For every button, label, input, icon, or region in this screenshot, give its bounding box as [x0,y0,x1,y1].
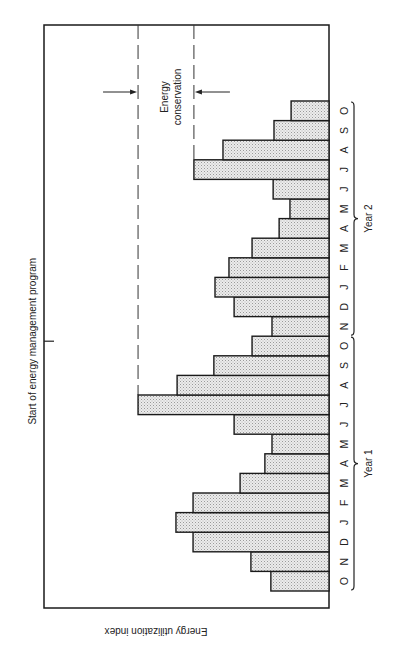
month-label-19: M [338,204,350,213]
y-axis-label: Energy utilization index [105,626,208,637]
bar-9 [138,395,329,415]
energy-conservation-label-line2: conservation [172,69,183,126]
bar-4 [193,493,329,513]
year-brace-2 [351,102,358,335]
bar-8 [234,415,329,435]
month-label-9: J [338,402,350,407]
month-label-13: N [338,323,350,331]
month-label-0: O [338,577,350,585]
program-start-label: Start of energy management program [27,258,38,425]
bar-2 [193,532,329,552]
month-label-1: N [338,558,350,566]
month-labels: ONDJFMAMJJASONDJFMAMJJASO [338,107,350,586]
bar-23 [274,121,329,141]
month-label-15: J [338,285,350,290]
month-label-12: O [338,342,350,350]
bar-24 [291,101,329,121]
bar-10 [177,375,329,395]
bar-11 [214,356,329,376]
month-label-10: A [338,382,350,389]
bar-1 [251,552,329,572]
month-label-11: S [338,362,350,369]
bar-18 [279,219,329,239]
bar-15 [215,277,329,297]
month-label-5: M [338,479,350,488]
bar-6 [265,454,329,474]
bar-22 [223,140,329,160]
month-label-3: J [338,520,350,525]
month-label-6: A [338,460,350,467]
right-arrowhead-icon [195,90,202,95]
bar-12 [252,336,329,356]
month-label-4: F [338,500,350,506]
month-label-23: S [338,127,350,134]
month-label-21: J [338,167,350,172]
bar-21 [194,160,329,180]
year-label-1: Year 1 [363,449,374,478]
month-label-24: O [338,107,350,115]
bar-14 [234,297,329,317]
bar-5 [240,473,329,493]
month-label-20: J [338,187,350,192]
year-braces: Year 1Year 2 [351,102,374,590]
month-label-17: M [338,244,350,253]
bar-0 [271,571,329,591]
month-label-8: J [338,422,350,427]
bar-17 [252,238,329,258]
bar-3 [176,513,329,533]
bar-13 [272,317,329,337]
year-label-2: Year 2 [363,204,374,233]
energy-utilization-chart: Energy conservation ONDJFMAMJJASONDJFMAM… [0,0,397,648]
energy-conservation-label-line1: Energy [159,81,170,113]
energy-conservation-annotation: Energy conservation [103,25,230,395]
year-brace-1 [351,337,358,590]
month-label-22: A [338,146,350,153]
bar-20 [273,179,329,199]
month-label-16: F [338,264,350,270]
month-label-2: D [338,538,350,546]
month-label-7: M [338,440,350,449]
left-arrowhead-icon [130,90,137,95]
bar-19 [290,199,329,219]
month-label-18: A [338,225,350,232]
bars [138,101,329,591]
bar-7 [272,434,329,454]
bar-16 [229,258,329,278]
month-label-14: D [338,303,350,311]
